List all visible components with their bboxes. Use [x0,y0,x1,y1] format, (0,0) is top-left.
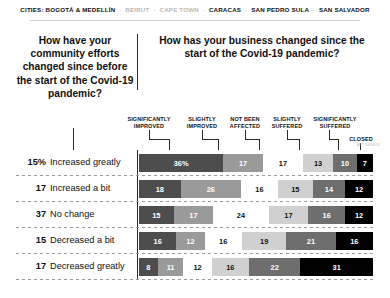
city-san-salvador[interactable]: SAN SALVADOR [319,6,370,13]
bar-segment-slightly-suffered[interactable]: 15 [278,180,313,198]
column-header-line1: SLIGHTLY [180,116,224,123]
table-row: 15 Decreased a bit 16 12 16 19 21 16 [0,228,390,254]
bar-segment-slightly-improved[interactable]: 26 [181,180,241,198]
row-label: No change [50,209,94,219]
table-row: 17 Increased a bit 18 26 16 15 14 12 [0,176,390,202]
row-label: Decreased a bit [50,235,114,245]
column-header-line1: SLIGHTLY [266,116,308,123]
city-bogota-medellin[interactable]: BOGOTÁ & MEDELLÍN [46,6,116,13]
bar-segment-not-been-affected[interactable]: 24 [213,206,269,224]
city-separator: · [311,6,317,13]
column-header-slightly-suffered: SLIGHTLY SUFFERED [266,116,308,129]
row-total: 15% [18,157,46,167]
row-axis-rule [137,228,138,254]
column-header-line2: SUFFERED [266,123,308,130]
bar-segment-slightly-suffered[interactable]: 17 [269,206,308,224]
bar-segment-significantly-suffered[interactable]: 22 [249,258,300,276]
bar-segment-closed[interactable]: 12 [345,180,373,198]
stacked-bar: 8 11 12 16 22 31 [139,258,373,276]
city-separator: · [201,6,207,13]
cities-bar: CITIES: BOGOTÁ & MEDELLÍN · BEIRUT · CAP… [0,6,390,13]
column-header-line1: CLOSED [344,136,378,143]
column-header-line2: AFFECTED [225,123,265,130]
city-separator: · [243,6,249,13]
column-header-slightly-improved: SLIGHTLY IMPROVED [180,116,224,129]
row-label: Decreased greatly [50,261,125,271]
row-total: 17 [18,183,46,193]
column-header-line2: SUFFERED [306,123,364,130]
row-axis-rule [137,150,138,176]
row-divider [16,279,374,280]
row-label: Increased greatly [50,157,120,167]
city-separator: · [117,6,123,13]
table-row: 15% Increased greatly 36% 17 17 13 10 7 [0,150,390,176]
bar-segment-significantly-improved[interactable]: 36% [139,154,223,172]
chart-rows: 15% Increased greatly 36% 17 17 13 10 7 … [0,150,390,280]
table-row: 17 Decreased greatly 8 11 12 16 22 31 [0,254,390,280]
bar-segment-significantly-suffered[interactable]: 14 [313,180,345,198]
row-axis-rule [137,254,138,280]
city-san-pedro-sula[interactable]: SAN PEDRO SULA [251,6,309,13]
column-header-significantly-improved: SIGNIFICANTLY IMPROVED [120,116,178,129]
bar-segment-significantly-suffered[interactable]: 21 [286,232,335,250]
bar-segment-not-been-affected[interactable]: 16 [205,232,242,250]
bar-segment-slightly-improved[interactable]: 12 [176,232,204,250]
column-header-not-been-affected: NOT BEEN AFFECTED [225,116,265,129]
column-header-significantly-suffered: SIGNIFICANTLY SUFFERED [306,116,364,129]
row-total: 37 [18,209,46,219]
bar-segment-not-been-affected[interactable]: 17 [263,154,303,172]
city-caracas[interactable]: CARACAS [209,6,241,13]
bar-segment-slightly-improved[interactable]: 17 [223,154,263,172]
header-divider [137,34,138,90]
stacked-bar: 15 17 24 17 16 12 [139,206,373,224]
row-label: Increased a bit [50,183,110,193]
table-row: 37 No change 15 17 24 17 16 12 [0,202,390,228]
city-beirut[interactable]: BEIRUT [125,6,149,13]
bar-segment-not-been-affected[interactable]: 16 [241,180,278,198]
city-separator: · [151,6,157,13]
bar-segment-significantly-suffered[interactable]: 10 [333,154,356,172]
bar-segment-closed[interactable]: 31 [300,258,373,276]
credit-text: ATT 14/03/20 [357,143,380,147]
cities-label: CITIES: [20,6,43,13]
row-total: 15 [18,235,46,245]
stacked-bar: 18 26 16 15 14 12 [139,180,373,198]
question-left: How have your community efforts changed … [14,34,136,100]
city-cape-town[interactable]: CAPE TOWN [160,6,199,13]
bar-segment-slightly-improved[interactable]: 11 [158,258,184,276]
stacked-bar: 16 12 16 19 21 16 [139,232,373,250]
bar-segment-significantly-improved[interactable]: 18 [139,180,181,198]
column-header-line2: IMPROVED [120,123,178,130]
column-header-line1: SIGNIFICANTLY [306,116,364,123]
bar-segment-slightly-improved[interactable]: 17 [174,206,213,224]
bar-segment-significantly-improved[interactable]: 8 [139,258,158,276]
left-question-stem [73,128,74,150]
bar-segment-closed[interactable]: 7 [357,154,373,172]
bar-segment-not-been-affected[interactable]: 12 [183,258,211,276]
column-header-line1: NOT BEEN [225,116,265,123]
bar-segment-closed[interactable]: 16 [336,232,373,250]
bar-segment-slightly-suffered[interactable]: 13 [303,154,333,172]
bar-segment-closed[interactable]: 12 [345,206,373,224]
column-header-closed: CLOSED [344,136,378,143]
row-axis-rule [137,202,138,228]
stacked-bar: 36% 17 17 13 10 7 [139,154,373,172]
bar-segment-significantly-improved[interactable]: 15 [139,206,174,224]
question-right: How has your business changed since the … [148,34,376,60]
row-axis-rule [137,176,138,202]
bar-segment-significantly-improved[interactable]: 16 [139,232,176,250]
row-total: 17 [18,261,46,271]
cities-divider [30,20,360,21]
column-header-line2: IMPROVED [180,123,224,130]
bar-segment-slightly-suffered[interactable]: 19 [242,232,286,250]
bar-segment-slightly-suffered[interactable]: 16 [212,258,249,276]
bar-segment-significantly-suffered[interactable]: 16 [308,206,345,224]
column-header-line1: SIGNIFICANTLY [120,116,178,123]
